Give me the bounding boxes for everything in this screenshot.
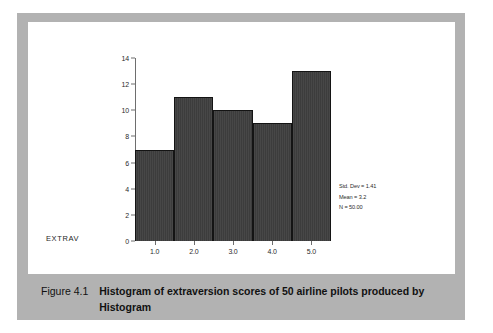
histogram-bar bbox=[253, 123, 292, 241]
x-axis-tick-label: 2.0 bbox=[189, 248, 198, 255]
figure-frame: 0 2 4 6 8 10 12 14 1.0 2.0 bbox=[17, 13, 465, 320]
y-axis-tick-label: 12 bbox=[122, 81, 129, 88]
x-axis-tick-label: 5.0 bbox=[307, 248, 316, 255]
x-axis-tick bbox=[155, 241, 156, 245]
y-axis-tick-label: 0 bbox=[125, 238, 129, 245]
x-axis-tick bbox=[272, 241, 273, 245]
y-axis-tick-label: 2 bbox=[125, 211, 129, 218]
y-axis-tick-label: 14 bbox=[122, 55, 129, 62]
y-axis-tick-label: 8 bbox=[125, 133, 129, 140]
sample-size-text: N = 50.00 bbox=[339, 202, 376, 213]
y-axis-tick bbox=[131, 136, 135, 137]
histogram-plot: 0 2 4 6 8 10 12 14 1.0 2.0 bbox=[135, 58, 331, 241]
y-axis-tick bbox=[131, 84, 135, 85]
x-axis-tick-label: 4.0 bbox=[268, 248, 277, 255]
statistics-annotation: Std. Dev = 1.41 Mean = 3.2 N = 50.00 bbox=[339, 181, 376, 213]
histogram-bar bbox=[135, 150, 174, 242]
figure-caption: Figure 4.1 Histogram of extraversion sco… bbox=[41, 284, 441, 315]
mean-text: Mean = 3.2 bbox=[339, 192, 376, 203]
y-axis-tick-label: 10 bbox=[122, 107, 129, 114]
chart-panel: 0 2 4 6 8 10 12 14 1.0 2.0 bbox=[28, 22, 455, 274]
y-axis-tick-label: 6 bbox=[125, 159, 129, 166]
figure-caption-text: Histogram of extraversion scores of 50 a… bbox=[99, 284, 441, 315]
y-axis-tick bbox=[131, 110, 135, 111]
histogram-bar bbox=[292, 71, 331, 241]
y-axis-tick-label: 4 bbox=[125, 185, 129, 192]
y-axis-tick bbox=[131, 58, 135, 59]
x-axis-tick-label: 1.0 bbox=[150, 248, 159, 255]
x-axis-tick-label: 3.0 bbox=[228, 248, 237, 255]
histogram-bar bbox=[213, 110, 252, 241]
x-axis-tick bbox=[233, 241, 234, 245]
x-axis-title: EXTRAV bbox=[46, 234, 79, 243]
x-axis-tick bbox=[311, 241, 312, 245]
std-dev-text: Std. Dev = 1.41 bbox=[339, 181, 376, 192]
x-axis-tick bbox=[194, 241, 195, 245]
figure-caption-number: Figure 4.1 bbox=[41, 284, 88, 300]
histogram-bar bbox=[174, 97, 213, 241]
